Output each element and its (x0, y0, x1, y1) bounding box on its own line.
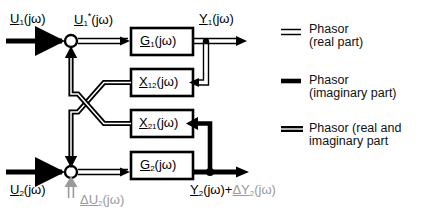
signal-label-u1-star-main: U (74, 12, 83, 27)
signal-label-y1-main: Y (199, 11, 208, 26)
legend-item-real-line2: (real part) (309, 36, 363, 49)
signal-label-y2-sum: Y2(jω)+ΔY2(jω) (190, 183, 276, 198)
signal-label-y2-tail: (jω) (203, 182, 225, 197)
block-label-x21: X21(jω) (139, 116, 178, 131)
signal-label-delta-y2-main: ΔY (232, 182, 249, 197)
legend-item-imaginary-line2: (imaginary part) (309, 87, 397, 100)
block-label-x12-sub: 12 (148, 81, 157, 90)
legend-item-real-imaginary: Phasor (real and imaginary part (309, 122, 401, 148)
block-label-x12-main: X (139, 74, 148, 89)
line-u2star-to-g2 (78, 168, 130, 177)
line-u1star-to-g1 (78, 37, 130, 46)
signal-label-y1: Y1(jω) (199, 12, 234, 27)
block-label-x21-main: X (139, 115, 148, 130)
legend-item-real-imaginary-line2: imaginary part (309, 135, 401, 148)
block-label-g1-tail: (jω) (155, 33, 177, 48)
sum-junction-1 (65, 35, 77, 47)
signal-label-u1-main: U (10, 11, 19, 26)
signal-label-u1-star: U1*(jω) (74, 12, 113, 28)
signal-label-delta-u2-tail: (jω) (103, 192, 125, 207)
delta-u2-injection-arrow (65, 176, 78, 198)
output-line-y1 (193, 36, 247, 46)
block-label-g2-main: G (140, 157, 150, 172)
signal-label-delta-u2: ΔU2(jω) (80, 193, 124, 208)
signal-label-u1: U1(jω) (10, 12, 46, 27)
block-label-x21-sub: 21 (148, 122, 157, 131)
signal-label-u2: U2(jω) (10, 183, 46, 198)
block-label-x12: X12(jω) (139, 75, 178, 90)
signal-label-delta-u2-main: ΔU (80, 192, 98, 207)
diagram-canvas: G1(jω) X12(jω) X21(jω) G2(jω) U1(jω) U1*… (0, 0, 424, 212)
block-label-g1: G1(jω) (140, 34, 176, 49)
signal-label-u1-tail: (jω) (24, 11, 46, 26)
signal-label-delta-y2-tail: (jω) (254, 182, 276, 197)
signal-label-y2-main: Y (190, 182, 199, 197)
signal-label-u1-star-tail: (jω) (91, 12, 113, 27)
output-line-y2 (193, 167, 249, 178)
signal-label-u2-main: U (10, 182, 19, 197)
block-label-g1-main: G (140, 33, 150, 48)
block-label-x12-tail: (jω) (157, 74, 179, 89)
legend-item-real: Phasor (real part) (309, 23, 363, 49)
legend-item-imaginary: Phasor (imaginary part) (309, 74, 397, 100)
block-label-x21-tail: (jω) (157, 115, 179, 130)
block-label-g2-tail: (jω) (155, 157, 177, 172)
block-label-g2: G2(jω) (140, 158, 176, 173)
signal-label-y1-tail: (jω) (212, 11, 234, 26)
signal-label-u2-tail: (jω) (24, 182, 46, 197)
